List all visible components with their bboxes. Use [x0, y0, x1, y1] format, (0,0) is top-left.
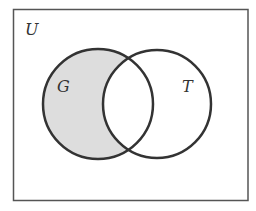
universe-label: U [25, 20, 39, 39]
set-g-label: G [57, 77, 70, 96]
set-t-label: T [182, 77, 194, 96]
venn-diagram: U G T [0, 0, 256, 211]
